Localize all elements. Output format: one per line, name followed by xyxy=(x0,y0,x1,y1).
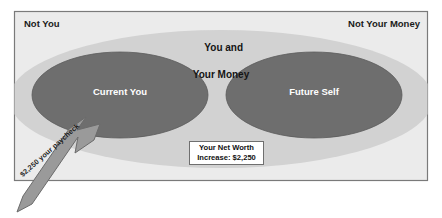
callout-net-worth-line2: Increase: $2,250 xyxy=(197,153,256,163)
callout-net-worth-line1: Your Net Worth xyxy=(199,143,254,153)
label-current-you: Current You xyxy=(68,87,172,98)
label-you-and-your-money-line2: Your Money xyxy=(0,68,442,82)
label-future-self: Future Self xyxy=(262,87,366,98)
callout-net-worth: Your Net Worth Increase: $2,250 xyxy=(189,141,264,165)
label-you-and-your-money-line1: You and xyxy=(204,42,243,53)
label-you-and-your-money: You and Your Money xyxy=(0,27,442,95)
